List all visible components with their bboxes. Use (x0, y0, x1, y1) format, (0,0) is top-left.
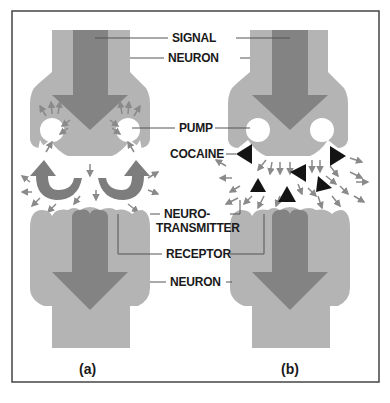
label-neurotransmitter-1: NEURO- (164, 207, 210, 221)
label-neuron-top: NEURON (168, 51, 219, 65)
panel-a-caption: (a) (79, 361, 96, 377)
label-neuron-bottom: NEURON (170, 275, 221, 289)
label-neurotransmitter-2: TRANSMITTER (156, 221, 240, 235)
pump-left-b (246, 118, 270, 142)
label-pump: PUMP (179, 121, 213, 135)
label-cocaine: COCAINE (170, 147, 224, 161)
pump-left-a (40, 118, 64, 142)
pump-right-b (310, 118, 334, 142)
label-signal: SIGNAL (172, 31, 216, 45)
pump-right-a (116, 118, 140, 142)
label-receptor: RECEPTOR (166, 247, 231, 261)
cocaine-synapse-diagram: (a) (0, 0, 390, 403)
panel-b-caption: (b) (281, 361, 299, 377)
